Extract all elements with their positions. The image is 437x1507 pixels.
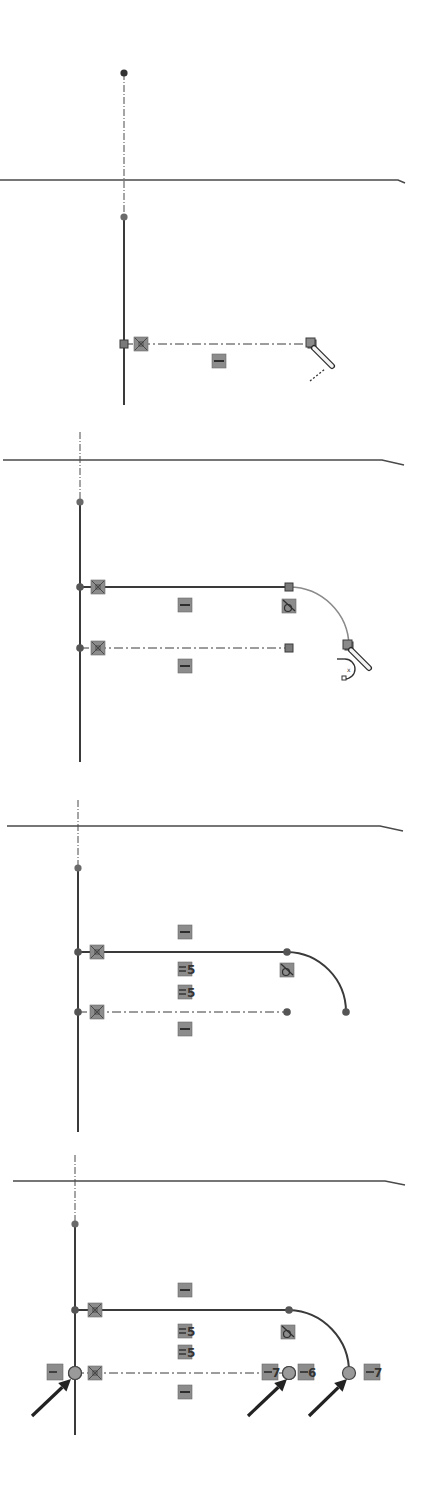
sketch-endpoint[interactable] bbox=[285, 583, 293, 591]
relation-coincident-icon[interactable] bbox=[91, 641, 105, 655]
selected-endpoint[interactable] bbox=[283, 1367, 296, 1380]
axis-point[interactable] bbox=[71, 1220, 78, 1227]
sketch-endpoint[interactable] bbox=[285, 1306, 293, 1314]
sketch-endpoint[interactable] bbox=[283, 1008, 291, 1016]
relation-equal-icon[interactable]: 5 bbox=[178, 985, 195, 1000]
relation-horizontal-mid-icon[interactable]: 6 bbox=[298, 1364, 316, 1380]
relation-tangent-icon[interactable] bbox=[282, 599, 296, 613]
sketch-endpoint[interactable] bbox=[76, 583, 84, 591]
sketch-endpoint[interactable] bbox=[120, 340, 128, 348]
relation-label: 5 bbox=[187, 986, 195, 1000]
relation-tangent-icon[interactable] bbox=[280, 963, 294, 977]
relation-tangent-icon[interactable] bbox=[281, 1325, 295, 1339]
selected-endpoint[interactable] bbox=[343, 1367, 356, 1380]
selected-endpoint[interactable] bbox=[69, 1367, 82, 1380]
relation-coincident-icon[interactable] bbox=[90, 1005, 104, 1019]
relation-label: 7 bbox=[374, 1366, 382, 1380]
arc-tool-hint-point bbox=[342, 676, 346, 680]
relation-horizontal-mid-icon[interactable]: 7 bbox=[262, 1364, 280, 1380]
relation-horizontal-icon[interactable] bbox=[178, 1385, 192, 1399]
relation-coincident-icon[interactable] bbox=[90, 945, 104, 959]
sketch-endpoint[interactable] bbox=[71, 1306, 79, 1314]
relation-label: 7 bbox=[272, 1366, 280, 1380]
relation-label: 5 bbox=[187, 963, 195, 977]
axis-point[interactable] bbox=[74, 864, 81, 871]
arc-tool-hint-mark: x bbox=[347, 666, 351, 673]
relation-equal-icon[interactable]: 5 bbox=[178, 962, 195, 977]
sketch-endpoint[interactable] bbox=[74, 1008, 82, 1016]
relation-coincident-icon[interactable] bbox=[134, 337, 148, 351]
relation-horizontal-icon[interactable] bbox=[178, 925, 192, 939]
relation-horizontal-icon[interactable] bbox=[178, 598, 192, 612]
relation-equal-icon[interactable]: 5 bbox=[178, 1345, 195, 1360]
sketch-endpoint[interactable] bbox=[285, 644, 293, 652]
relation-horizontal-icon[interactable] bbox=[178, 659, 192, 673]
relation-horizontal-icon[interactable] bbox=[178, 1022, 192, 1036]
axis-point[interactable] bbox=[76, 498, 83, 505]
relation-coincident-icon[interactable] bbox=[91, 580, 105, 594]
sketch-endpoint[interactable] bbox=[74, 948, 82, 956]
relation-coincident-icon[interactable] bbox=[88, 1366, 102, 1380]
relation-coincident-icon[interactable] bbox=[88, 1303, 102, 1317]
relation-horizontal-icon[interactable] bbox=[178, 1283, 192, 1297]
relation-label: 6 bbox=[308, 1366, 316, 1380]
relation-label: 5 bbox=[187, 1325, 195, 1339]
sketch-canvas[interactable]: x5555767 bbox=[0, 0, 437, 1507]
arc-endpoint[interactable] bbox=[342, 1008, 350, 1016]
centerline-endpoint[interactable] bbox=[120, 69, 127, 76]
canvas-background bbox=[0, 0, 437, 1507]
relation-horizontal-mid-icon[interactable] bbox=[47, 1364, 63, 1380]
relation-horizontal-mid-icon[interactable]: 7 bbox=[364, 1364, 382, 1380]
relation-label: 5 bbox=[187, 1346, 195, 1360]
sketch-endpoint[interactable] bbox=[76, 644, 84, 652]
relation-equal-icon[interactable]: 5 bbox=[178, 1324, 195, 1339]
sketch-endpoint[interactable] bbox=[283, 948, 291, 956]
axis-point[interactable] bbox=[120, 213, 127, 220]
relation-horizontal-icon[interactable] bbox=[212, 354, 226, 368]
